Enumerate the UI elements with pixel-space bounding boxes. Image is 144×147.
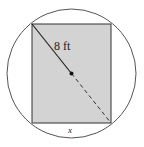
diagram-canvas: 8 ft x bbox=[0, 0, 144, 147]
width-label: x bbox=[67, 125, 72, 135]
diagonal-label: 8 ft bbox=[54, 39, 71, 53]
center-point bbox=[70, 72, 74, 76]
